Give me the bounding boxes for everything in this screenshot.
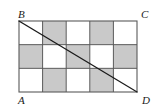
unshaded-cell (90, 45, 114, 69)
shaded-cell (19, 45, 43, 69)
shaded-cell (90, 68, 114, 92)
unshaded-cell (66, 68, 90, 92)
shaded-cell (43, 21, 67, 45)
vertex-label-a: A (17, 94, 25, 106)
geometry-figure: BCAD (0, 0, 162, 110)
shaded-cell (43, 68, 67, 92)
figure-canvas: BCAD (0, 0, 162, 110)
vertex-label-c: C (141, 8, 149, 20)
vertex-label-b: B (18, 8, 25, 20)
unshaded-cell (113, 21, 137, 45)
unshaded-cell (19, 68, 43, 92)
vertex-label-d: D (141, 94, 150, 106)
shaded-cell (113, 45, 137, 69)
unshaded-cell (43, 45, 67, 69)
unshaded-cell (66, 21, 90, 45)
shaded-cell (90, 21, 114, 45)
